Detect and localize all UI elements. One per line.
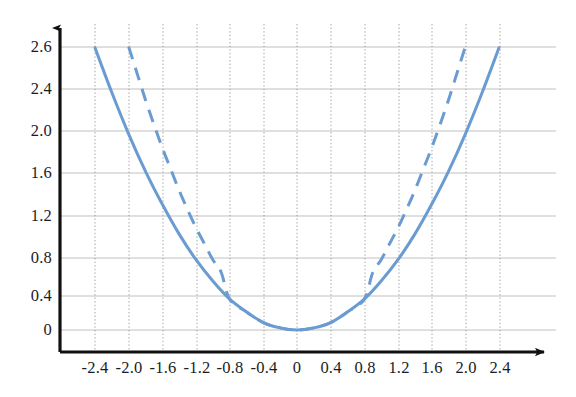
chart-container: 0 0.4 0.8 1.2 1.6 2.0 2.4 2.6 -2.4 -2.0 … [0, 0, 576, 397]
y-tick-label: 2.0 [14, 121, 52, 141]
y-tick-label: 0 [14, 320, 52, 340]
grid-horizontal [60, 47, 556, 330]
axes [60, 28, 544, 352]
x-tick-label: 2.4 [478, 358, 522, 378]
y-tick-label: 0.8 [14, 248, 52, 268]
y-tick-label: 0.4 [14, 286, 52, 306]
y-tick-label: 1.2 [14, 206, 52, 226]
y-tick-label: 1.6 [14, 163, 52, 183]
plot-area [0, 0, 576, 397]
y-tick-label: 2.6 [14, 37, 52, 57]
y-tick-label: 2.4 [14, 79, 52, 99]
